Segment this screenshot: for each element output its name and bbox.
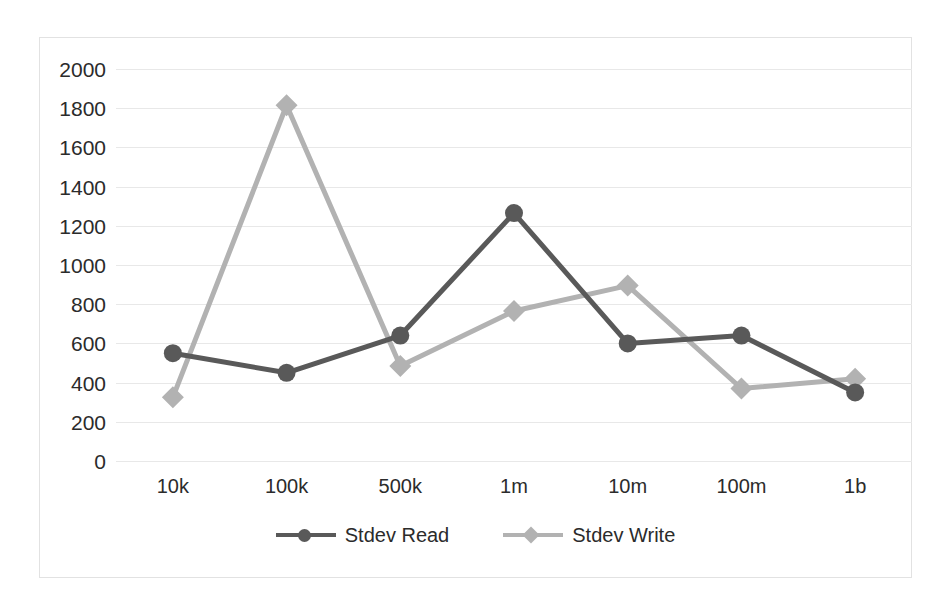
data-point-marker xyxy=(503,300,525,322)
legend-circle-marker-icon xyxy=(276,526,336,544)
legend-item-stdev-write[interactable]: Stdev Write xyxy=(503,525,675,545)
y-tick-label: 400 xyxy=(42,372,106,393)
gridline xyxy=(116,461,912,462)
y-tick-label: 1600 xyxy=(42,137,106,158)
x-tick-label: 100m xyxy=(716,476,766,496)
data-point-marker xyxy=(276,94,298,116)
legend-label: Stdev Write xyxy=(572,525,675,545)
data-point-marker xyxy=(164,344,182,362)
x-tick-label: 10m xyxy=(608,476,647,496)
y-axis: 2000180016001400120010008006004002000 xyxy=(40,69,106,461)
chart-container: 2000180016001400120010008006004002000 10… xyxy=(39,37,912,578)
x-tick-label: 1m xyxy=(500,476,528,496)
data-point-marker xyxy=(391,327,409,345)
y-tick-label: 1800 xyxy=(42,98,106,119)
y-tick-label: 1000 xyxy=(42,255,106,276)
y-tick-label: 800 xyxy=(42,294,106,315)
y-tick-label: 0 xyxy=(42,451,106,472)
data-point-marker xyxy=(732,327,750,345)
y-tick-label: 200 xyxy=(42,411,106,432)
plot-area xyxy=(116,69,912,461)
x-tick-label: 10k xyxy=(157,476,189,496)
data-point-marker xyxy=(505,204,523,222)
x-axis: 10k100k500k1m10m100m1b xyxy=(116,476,912,506)
x-tick-label: 500k xyxy=(379,476,422,496)
legend-label: Stdev Read xyxy=(345,525,450,545)
y-tick-label: 1200 xyxy=(42,215,106,236)
data-point-marker xyxy=(846,383,864,401)
x-tick-label: 100k xyxy=(265,476,308,496)
chart-legend: Stdev ReadStdev Write xyxy=(40,525,911,545)
y-tick-label: 2000 xyxy=(42,59,106,80)
series-svg xyxy=(116,69,912,461)
data-point-marker xyxy=(278,364,296,382)
data-point-marker xyxy=(389,355,411,377)
x-tick-label: 1b xyxy=(844,476,866,496)
series-line-stdev-write xyxy=(173,105,855,397)
y-tick-label: 1400 xyxy=(42,176,106,197)
legend-item-stdev-read[interactable]: Stdev Read xyxy=(276,525,450,545)
y-tick-label: 600 xyxy=(42,333,106,354)
legend-diamond-marker-icon xyxy=(503,526,563,544)
data-point-marker xyxy=(162,386,184,408)
data-point-marker xyxy=(619,334,637,352)
